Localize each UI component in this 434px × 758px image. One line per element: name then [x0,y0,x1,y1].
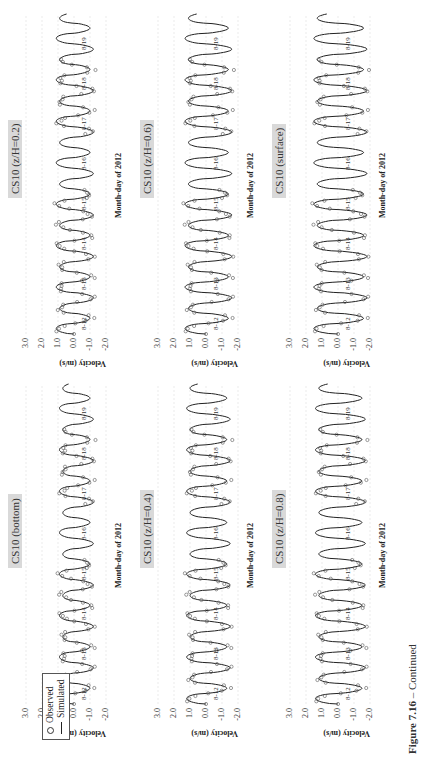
x-tick-label: 8-13 [212,277,220,290]
x-tick-label: 8-19 [344,407,352,420]
x-tick-label: 8-17 [80,117,88,130]
y-tick-label: -2.0 [101,338,110,358]
x-tick-label: 8-13 [212,647,220,660]
chart-panel: CS10 (z/H=0.4)3.02.01.00.0-1.0-2.08-128-… [140,378,258,738]
panel-title: CS10 (surface) [272,124,286,198]
y-tick-label: 3.0 [21,708,30,728]
x-tick-label: 8-16 [80,157,88,170]
x-tick-label: 8-14 [212,607,220,620]
simulated-line [316,384,366,704]
x-tick-label: 8-12 [344,687,352,700]
x-tick-label: 8-18 [80,447,88,460]
x-tick-label: 8-14 [80,607,88,620]
x-tick-label: 8-18 [344,447,352,460]
legend-observed: Observed [45,679,56,734]
y-axis-label: Velocity (m/s) [323,359,370,368]
y-tick-label: 0.0 [333,708,342,728]
x-tick-label: 8-16 [344,157,352,170]
x-tick-label: 8-14 [80,237,88,250]
x-tick-label: 8-13 [344,277,352,290]
y-tick-label: -1.0 [349,338,358,358]
x-axis-label: Month-day of 2012 [114,523,123,588]
x-tick-label: 8-15 [80,567,88,580]
y-tick-label: 2.0 [169,708,178,728]
y-axis-label: Velocity (m/s) [191,729,238,738]
x-tick-label: 8-16 [212,157,220,170]
plot-area [272,378,390,738]
x-axis-label: Month-day of 2012 [114,153,123,218]
y-tick-label: -2.0 [233,708,242,728]
y-tick-label: 2.0 [301,338,310,358]
x-axis-label: Month-day of 2012 [246,153,255,218]
x-tick-label: 8-18 [212,77,220,90]
panel-title: CS10 (z/H=0.6) [140,120,154,198]
y-tick-label: 1.0 [317,338,326,358]
y-tick-label: -1.0 [217,338,226,358]
x-tick-label: 8-16 [80,527,88,540]
x-tick-label: 8-19 [80,407,88,420]
panel-title: CS10 (z/H=0.2) [8,120,22,198]
y-tick-label: -1.0 [85,708,94,728]
legend: Observed Simulated [42,673,70,740]
y-tick-label: 0.0 [201,708,210,728]
rotated-figure-page: CS10 (bottom)3.02.01.00.0-1.0-2.08-128-1… [0,0,434,758]
x-tick-label: 8-12 [212,317,220,330]
x-tick-label: 8-16 [212,527,220,540]
x-tick-label: 8-14 [344,237,352,250]
x-axis-label: Month-day of 2012 [246,523,255,588]
x-tick-label: 8-17 [80,487,88,500]
x-tick-label: 8-16 [344,527,352,540]
x-tick-label: 8-18 [212,447,220,460]
y-tick-label: 0.0 [333,338,342,358]
x-axis-label: Month-day of 2012 [378,523,387,588]
x-tick-label: 8-19 [344,37,352,50]
y-tick-label: -1.0 [85,338,94,358]
chart-panel: CS10 (z/H=0.8)3.02.01.00.0-1.0-2.08-128-… [272,378,390,738]
x-tick-label: 8-13 [344,647,352,660]
x-tick-label: 8-17 [212,487,220,500]
x-tick-label: 8-19 [80,37,88,50]
x-tick-label: 8-19 [212,37,220,50]
circle-marker-icon [47,727,54,734]
x-tick-label: 8-13 [80,277,88,290]
plot-area [8,8,126,368]
y-tick-label: 1.0 [185,708,194,728]
x-tick-label: 8-15 [80,197,88,210]
y-tick-label: 3.0 [153,708,162,728]
x-tick-label: 8-18 [80,77,88,90]
chart-panel: CS10 (surface)3.02.01.00.0-1.0-2.08-128-… [272,8,390,368]
y-tick-label: 3.0 [285,708,294,728]
y-tick-label: 1.0 [53,338,62,358]
y-tick-label: 2.0 [169,338,178,358]
y-tick-label: -2.0 [365,338,374,358]
y-axis-label: Velocity (m/s) [323,729,370,738]
chart-panel: CS10 (z/H=0.6)3.02.01.00.0-1.0-2.08-128-… [140,8,258,368]
y-tick-label: 3.0 [285,338,294,358]
panel-title: CS10 (bottom) [8,494,22,568]
simulated-line [187,384,230,704]
x-tick-label: 8-12 [344,317,352,330]
y-tick-label: 1.0 [317,708,326,728]
y-tick-label: 1.0 [185,338,194,358]
x-tick-label: 8-15 [212,197,220,210]
x-tick-label: 8-15 [344,197,352,210]
plot-area [140,8,258,368]
y-tick-label: -1.0 [217,708,226,728]
x-tick-label: 8-13 [80,647,88,660]
x-tick-label: 8-14 [344,607,352,620]
y-tick-label: 3.0 [21,338,30,358]
panel-title: CS10 (z/H=0.8) [272,490,286,568]
y-tick-label: -2.0 [101,708,110,728]
x-tick-label: 8-17 [344,117,352,130]
x-tick-label: 8-15 [344,567,352,580]
x-tick-label: 8-12 [80,317,88,330]
y-tick-label: 3.0 [153,338,162,358]
y-tick-label: 0.0 [201,338,210,358]
y-tick-label: -2.0 [365,708,374,728]
chart-panel: CS10 (z/H=0.2)3.02.01.00.0-1.0-2.08-128-… [8,8,126,368]
plot-area [140,378,258,738]
x-tick-label: 8-15 [212,567,220,580]
y-tick-label: 0.0 [69,708,78,728]
x-tick-label: 8-14 [212,237,220,250]
x-tick-label: 8-17 [212,117,220,130]
